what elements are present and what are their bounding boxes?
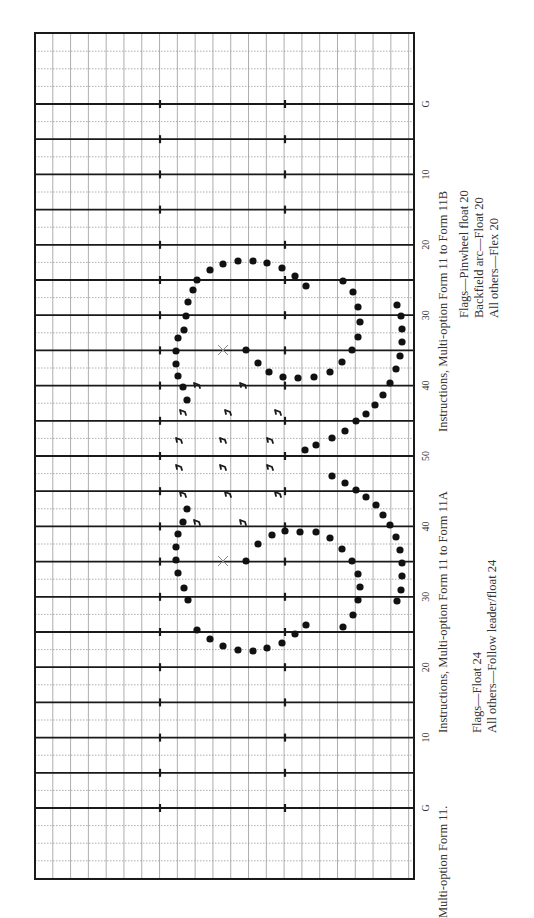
marcher-dot: [172, 360, 179, 367]
marcher-dot: [180, 584, 187, 591]
marcher-dot: [398, 572, 405, 579]
marcher-dot: [326, 534, 333, 541]
field-chart: G102030405040302010G: [0, 0, 534, 918]
marcher-dot: [328, 472, 335, 479]
instructions-a-heading: Instructions, Multi-option Form 11 to Fo…: [436, 491, 450, 733]
flag-icon: [267, 465, 273, 470]
marcher-dot: [278, 264, 285, 271]
marcher-dot: [354, 303, 361, 310]
marcher-dot: [348, 557, 355, 564]
marcher-dot: [371, 401, 378, 408]
flag-icon: [180, 492, 186, 497]
flag-icon: [240, 520, 246, 525]
yard-label: G: [420, 804, 431, 811]
marcher-dot: [291, 630, 298, 637]
marcher-dot: [234, 257, 241, 264]
instructions-b-heading-wrap: Instructions, Multi-option Form 11 to Fo…: [436, 191, 451, 432]
caption-form-11a: Multi-option Form 11.Instructions, Multi…: [436, 438, 451, 918]
marcher-dot: [338, 545, 345, 552]
marcher-dot: [348, 346, 355, 353]
marcher-dot: [193, 626, 200, 633]
marcher-dot: [254, 540, 261, 547]
flag-icon: [176, 465, 182, 470]
marcher-dot: [312, 441, 319, 448]
marcher-dot: [372, 501, 379, 508]
instructions-b-line: Backfield arc—Float 20: [472, 190, 487, 318]
instructions-b-lines: Flags—Pinwheel float 20 Backfield arc—Fl…: [457, 190, 502, 318]
marcher-dot: [354, 570, 361, 577]
marcher-dot: [352, 486, 359, 493]
marcher-dot: [396, 352, 403, 359]
marcher-dot: [354, 596, 361, 603]
yard-label: 30: [420, 310, 431, 320]
figure-title: Multi-option Form 11.: [436, 733, 451, 918]
yard-label: 10: [420, 169, 431, 179]
marcher-dot: [339, 277, 346, 284]
marcher-dot: [242, 557, 249, 564]
marcher-dot: [326, 368, 333, 375]
marcher-dot: [234, 646, 241, 653]
flag-icon: [220, 465, 226, 470]
marcher-dot: [193, 276, 200, 283]
flag-icon: [275, 410, 281, 415]
yard-label: 50: [420, 451, 431, 461]
marcher-dot: [263, 644, 270, 651]
flag-icon: [225, 410, 231, 415]
marcher-dot: [179, 518, 186, 525]
yard-label: 40: [420, 381, 431, 391]
marcher-dot: [184, 298, 191, 305]
marcher-dot: [312, 528, 319, 535]
flag-icon: [176, 438, 182, 443]
instructions-b-heading: Instructions, Multi-option Form 11 to Fo…: [436, 191, 450, 432]
marcher-dot: [362, 410, 369, 417]
marcher-dot: [352, 417, 359, 424]
marcher-dot: [291, 272, 298, 279]
marcher-dot: [294, 374, 301, 381]
marcher-dot: [396, 546, 403, 553]
marcher-dot: [268, 531, 275, 538]
marcher-dot: [362, 493, 369, 500]
instructions-a-line: All others—Follow leader/float 24: [485, 560, 500, 733]
marcher-dot: [278, 639, 285, 646]
marcher-dot: [379, 391, 386, 398]
marcher-dot: [242, 346, 249, 353]
instructions-a-lines: Flags—Float 24 All others—Follow leader/…: [470, 560, 500, 733]
marcher-dot: [338, 358, 345, 365]
marcher-dot: [179, 383, 186, 390]
marcher-dot: [349, 288, 356, 295]
yard-labels: G102030405040302010G: [420, 100, 431, 811]
marcher-dot: [172, 556, 179, 563]
flag-icon: [180, 410, 186, 415]
marcher-dot: [189, 286, 196, 293]
marcher-dot: [182, 312, 189, 319]
marcher-dot: [183, 396, 190, 403]
flag-icon: [225, 492, 231, 497]
marcher-dot: [265, 368, 272, 375]
flag-icon: [194, 520, 200, 525]
marcher-dot: [302, 282, 309, 289]
marcher-dot: [219, 642, 226, 649]
marcher-dot: [339, 623, 346, 630]
marcher-dot: [174, 530, 181, 537]
marcher-dot: [386, 521, 393, 528]
instructions-b-line: All others—Flex 20: [487, 190, 502, 318]
marcher-dot: [172, 543, 179, 550]
marcher-dot: [356, 318, 363, 325]
marcher-dot: [392, 533, 399, 540]
marcher-dot: [263, 259, 270, 266]
marcher-dot: [310, 373, 317, 380]
marcher-dot: [379, 511, 386, 518]
marcher-dot: [398, 338, 405, 345]
marcher-dot: [249, 257, 256, 264]
marcher-dot: [219, 260, 226, 267]
yard-label: 20: [420, 240, 431, 250]
marcher-dot: [183, 505, 190, 512]
marcher-dot: [174, 569, 181, 576]
marcher-dot: [397, 586, 404, 593]
marcher-dot: [398, 325, 405, 332]
yard-lines: [35, 104, 414, 808]
flag-icon: [275, 492, 281, 497]
yard-label: 30: [420, 592, 431, 602]
marcher-dot: [249, 647, 256, 654]
marcher-dot: [206, 635, 213, 642]
